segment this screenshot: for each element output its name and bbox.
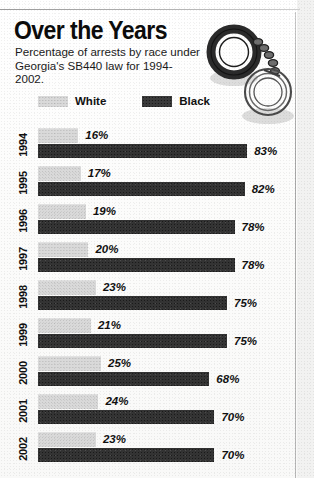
bar-row: 70%: [38, 410, 296, 424]
page-subtitle: Percentage of arrests by race under Geor…: [15, 45, 200, 86]
bar-row: 19%: [38, 204, 296, 218]
year-group: 199619%78%: [0, 202, 296, 240]
bar-black: [38, 410, 214, 424]
bar-black: [38, 334, 227, 348]
bar-white: [38, 356, 101, 371]
handcuffs-icon: [206, 22, 302, 124]
bar-row: 21%: [38, 318, 296, 332]
bar-value-label: 75%: [234, 296, 257, 310]
year-axis-label: 2002: [14, 430, 32, 468]
bar-black: [38, 296, 227, 310]
bar-value-label: 21%: [98, 318, 121, 332]
year-axis-label: 1995: [14, 164, 32, 202]
bar-value-label: 19%: [93, 204, 116, 218]
legend-label-white: White: [75, 95, 106, 107]
bar-chart: 199416%83%199517%82%199619%78%199720%78%…: [0, 126, 296, 468]
bar-row: 75%: [38, 334, 296, 348]
bar-row: 20%: [38, 242, 296, 256]
bar-white: [38, 394, 98, 409]
bar-value-label: 78%: [242, 220, 265, 234]
bar-black: [38, 220, 235, 234]
bar-value-label: 16%: [85, 128, 108, 142]
bar-row: 23%: [38, 280, 296, 294]
bar-value-label: 82%: [252, 182, 275, 196]
bar-white: [38, 128, 78, 143]
bar-row: 16%: [38, 128, 296, 142]
bar-black: [38, 144, 247, 158]
bar-black: [38, 448, 214, 462]
bar-black: [38, 372, 209, 386]
year-group: 200223%70%: [0, 430, 296, 468]
bar-value-label: 83%: [254, 144, 277, 158]
bar-black: [38, 258, 235, 272]
bar-white: [38, 166, 81, 181]
bar-value-label: 75%: [234, 334, 257, 348]
bar-row: 75%: [38, 296, 296, 310]
bar-row: 78%: [38, 258, 296, 272]
year-bars: 25%68%: [38, 356, 296, 388]
year-bars: 19%78%: [38, 204, 296, 236]
bar-row: 83%: [38, 144, 296, 158]
bar-value-label: 78%: [242, 258, 265, 272]
bar-white: [38, 280, 96, 295]
bar-value-label: 68%: [216, 372, 239, 386]
bar-value-label: 23%: [103, 432, 126, 446]
year-axis-label: 2000: [14, 354, 32, 392]
year-axis-label: 1999: [14, 316, 32, 354]
bar-value-label: 17%: [88, 166, 111, 180]
legend-item-black: Black: [142, 95, 210, 107]
year-bars: 23%75%: [38, 280, 296, 312]
year-axis-label: 1998: [14, 278, 32, 316]
bar-row: 78%: [38, 220, 296, 234]
bar-value-label: 70%: [221, 448, 244, 462]
year-axis-label: 1996: [14, 202, 32, 240]
year-bars: 21%75%: [38, 318, 296, 350]
bar-row: 70%: [38, 448, 296, 462]
infographic-page: Over the Years Percentage of arrests by …: [0, 0, 314, 478]
bar-white: [38, 432, 96, 447]
year-group: 199720%78%: [0, 240, 296, 278]
year-bars: 20%78%: [38, 242, 296, 274]
bar-row: 24%: [38, 394, 296, 408]
year-group: 199823%75%: [0, 278, 296, 316]
year-group: 199921%75%: [0, 316, 296, 354]
bar-value-label: 70%: [221, 410, 244, 424]
year-axis-label: 2001: [14, 392, 32, 430]
chart-legend: White Black: [38, 95, 210, 107]
top-divider-rule: [0, 9, 300, 10]
bar-row: 23%: [38, 432, 296, 446]
year-group: 199416%83%: [0, 126, 296, 164]
year-bars: 23%70%: [38, 432, 296, 464]
bar-row: 17%: [38, 166, 296, 180]
legend-swatch-black: [142, 96, 172, 107]
bar-value-label: 20%: [95, 242, 118, 256]
legend-swatch-white: [38, 96, 68, 107]
bar-value-label: 25%: [108, 356, 131, 370]
year-bars: 17%82%: [38, 166, 296, 198]
year-group: 200025%68%: [0, 354, 296, 392]
year-axis-label: 1994: [14, 126, 32, 164]
year-group: 199517%82%: [0, 164, 296, 202]
year-bars: 16%83%: [38, 128, 296, 160]
bar-row: 25%: [38, 356, 296, 370]
bar-value-label: 23%: [103, 280, 126, 294]
bar-row: 82%: [38, 182, 296, 196]
bar-white: [38, 242, 88, 257]
bar-black: [38, 182, 245, 196]
bar-white: [38, 204, 86, 219]
legend-item-white: White: [38, 95, 106, 107]
page-title: Over the Years: [14, 17, 167, 43]
bar-row: 68%: [38, 372, 296, 386]
year-bars: 24%70%: [38, 394, 296, 426]
bar-white: [38, 318, 91, 333]
legend-label-black: Black: [179, 95, 210, 107]
year-group: 200124%70%: [0, 392, 296, 430]
bar-value-label: 24%: [105, 394, 128, 408]
year-axis-label: 1997: [14, 240, 32, 278]
